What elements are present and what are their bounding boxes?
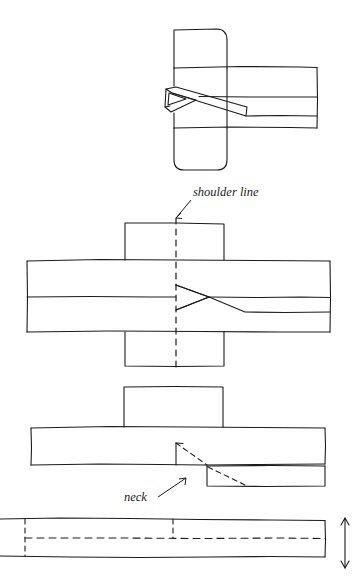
rail-division-line bbox=[199, 97, 317, 98]
rail-right-edge-mid bbox=[330, 261, 331, 332]
neck-dashed-diagonal-upper bbox=[176, 443, 207, 465]
rail-top-edge-mid bbox=[27, 260, 330, 262]
bar-bottom-edge bbox=[0, 556, 325, 558]
post-lower-outline bbox=[174, 128, 227, 170]
annotation-shoulder-line: shoulder line bbox=[176, 185, 259, 219]
neck-rail-bottom-right bbox=[205, 464, 325, 465]
neck-rail-right-edge bbox=[325, 428, 326, 464]
thickness-double-arrow bbox=[341, 518, 349, 568]
dovetail-wedge-triangle bbox=[176, 285, 209, 310]
post-upper-block bbox=[125, 223, 224, 260]
neck-arrow bbox=[158, 478, 186, 497]
dovetail-lower-cross-line bbox=[176, 297, 209, 310]
woodworking-joint-figure: shoulder line bbox=[0, 0, 357, 576]
rail-division-line-left bbox=[27, 297, 176, 298]
rail-top-edge bbox=[174, 67, 317, 69]
dovetail-tail-line bbox=[176, 285, 330, 313]
bar-top-edge bbox=[0, 518, 325, 521]
diagram-bottom-view-stock-bar bbox=[0, 518, 326, 558]
rail-division-line-right bbox=[208, 297, 330, 298]
rail-bottom-edge-mid bbox=[27, 331, 330, 332]
post-upper-outline bbox=[174, 29, 227, 68]
neck-corner-tick bbox=[176, 443, 183, 444]
lower-offset-top-edge bbox=[207, 466, 325, 467]
wedge-left-tick bbox=[165, 106, 170, 107]
diagram-top-view-joint-assembled bbox=[165, 29, 318, 170]
shoulder-line-label: shoulder line bbox=[193, 185, 259, 199]
diagram-middle-view-joint-shoulder bbox=[27, 218, 331, 372]
rail-bottom-edge bbox=[174, 127, 317, 128]
post-lower-block bbox=[125, 332, 224, 367]
neck-rail-left-edge bbox=[31, 428, 32, 465]
lower-offset-piece bbox=[207, 466, 325, 487]
top-small-block bbox=[124, 387, 223, 428]
neck-dashed-diagonal-lower bbox=[208, 467, 245, 485]
neck-rail-bottom-left bbox=[31, 464, 205, 465]
rail-lower-division-line bbox=[246, 116, 317, 117]
bar-dashed-centerline bbox=[25, 538, 325, 539]
neck-rail-top-edge bbox=[31, 427, 325, 429]
neck-label: neck bbox=[124, 490, 147, 504]
rail-right-edge bbox=[317, 68, 318, 129]
diagram-third-view-neck-step bbox=[31, 387, 326, 487]
annotation-neck: neck bbox=[124, 478, 186, 504]
